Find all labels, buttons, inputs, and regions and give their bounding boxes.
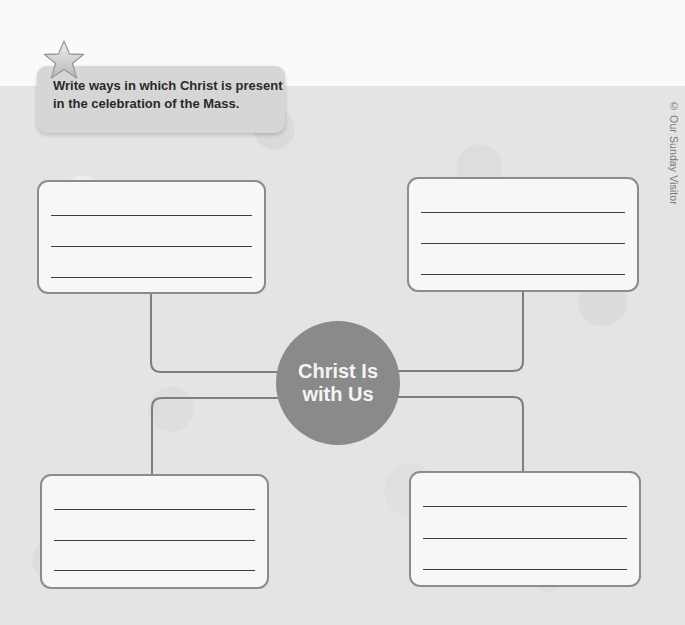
write-line[interactable]: [421, 274, 625, 275]
center-circle: Christ Is with Us: [276, 321, 400, 445]
answer-box-bottom-right[interactable]: [409, 471, 641, 587]
center-label-line1: Christ Is: [283, 360, 393, 383]
answer-box-top-right[interactable]: [407, 177, 639, 292]
write-line[interactable]: [54, 570, 255, 571]
write-line[interactable]: [421, 212, 625, 213]
center-label-line2: with Us: [283, 383, 393, 406]
write-line[interactable]: [51, 246, 252, 247]
write-line[interactable]: [54, 509, 255, 510]
write-line[interactable]: [51, 277, 252, 278]
answer-box-bottom-left[interactable]: [40, 474, 269, 589]
write-line[interactable]: [54, 540, 255, 541]
write-line[interactable]: [51, 215, 252, 216]
write-line[interactable]: [421, 243, 625, 244]
write-line[interactable]: [423, 569, 627, 570]
answer-box-top-left[interactable]: [37, 180, 266, 294]
write-line[interactable]: [423, 506, 627, 507]
write-line[interactable]: [423, 538, 627, 539]
